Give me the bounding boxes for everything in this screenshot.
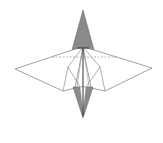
top-shaded-flap — [72, 10, 94, 50]
origami-diagram — [0, 0, 163, 143]
right-wing — [83, 47, 152, 91]
left-wing — [15, 47, 83, 91]
